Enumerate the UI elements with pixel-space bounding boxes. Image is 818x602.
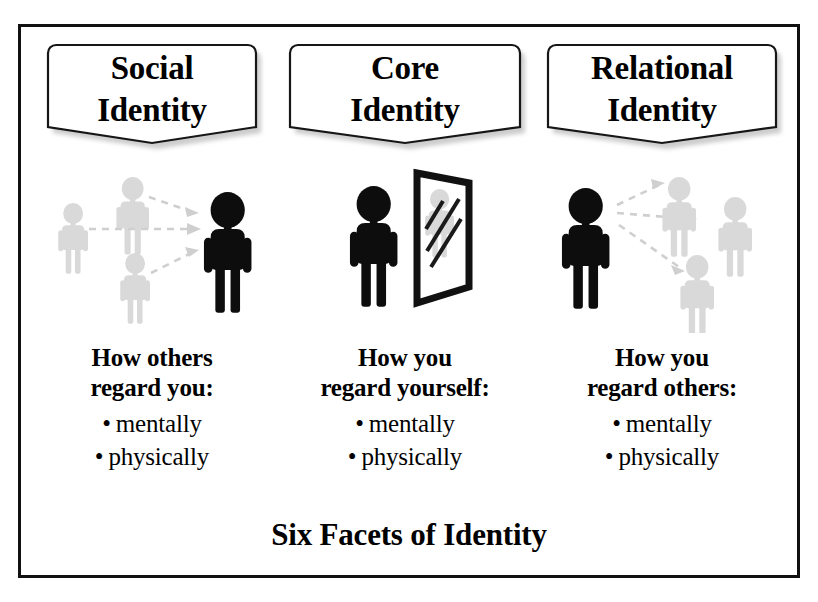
light-figure-left [58, 203, 88, 274]
banner-core: Core Identity [288, 43, 522, 147]
self-mirror-pictogram [277, 155, 533, 333]
caption-relational: How you regard others: •mentally •physic… [533, 343, 791, 473]
dashed-arrow-upper [617, 185, 659, 205]
facet-columns: Social Identity [21, 27, 797, 575]
bullet-icon: • [95, 443, 104, 470]
light-figure-lower [120, 253, 150, 324]
bullet-icon: • [355, 410, 364, 437]
bullet-icon: • [612, 410, 621, 437]
caption-bullet-label: physically [361, 443, 462, 470]
banner-label-social: Social Identity [46, 47, 258, 131]
caption-bullet-label: mentally [116, 410, 202, 437]
caption-bullet-label: physically [618, 443, 719, 470]
bullet-icon: • [102, 410, 111, 437]
facet-column-social: Social Identity [27, 27, 277, 575]
artwork-relational [533, 155, 791, 333]
artwork-core [277, 155, 533, 333]
artwork-social [27, 155, 277, 333]
light-figure-upper [116, 177, 149, 255]
arrowhead-group [185, 207, 201, 257]
caption-bullet-physically: •physically [533, 440, 791, 473]
caption-bullet-mentally: •mentally [277, 407, 533, 440]
caption-list-relational: •mentally •physically [533, 407, 791, 473]
facet-column-core: Core Identity [277, 27, 533, 575]
bullet-icon: • [348, 443, 357, 470]
light-figure-upper [662, 177, 696, 257]
banner-social: Social Identity [46, 43, 258, 147]
dark-figure-core [350, 186, 398, 307]
dark-figure-relational [562, 188, 610, 309]
light-figure-lower [680, 255, 714, 333]
caption-list-social: •mentally •physically [27, 407, 277, 473]
caption-social: How others regard you: •mentally •physic… [27, 343, 277, 473]
dashed-arrow-lower [619, 225, 679, 267]
facet-column-relational: Relational Identity [533, 27, 791, 575]
caption-heading-social: How others regard you: [27, 343, 277, 403]
banner-label-relational: Relational Identity [546, 47, 778, 131]
caption-heading-relational: How you regard others: [533, 343, 791, 403]
light-figure-right [718, 197, 752, 277]
light-figure-group [662, 177, 752, 333]
caption-bullet-label: mentally [626, 410, 712, 437]
caption-list-core: •mentally •physically [277, 407, 533, 473]
you-regarding-others-pictogram [533, 155, 791, 333]
caption-bullet-label: physically [108, 443, 209, 470]
dark-figure-social [204, 192, 252, 313]
light-figure-group [58, 177, 150, 324]
bullet-icon: • [605, 443, 614, 470]
caption-bullet-physically: •physically [27, 440, 277, 473]
caption-heading-core: How you regard yourself: [277, 343, 533, 403]
diagram-frame: Social Identity [18, 24, 800, 578]
banner-label-core: Core Identity [288, 47, 522, 131]
caption-bullet-label: mentally [369, 410, 455, 437]
caption-core: How you regard yourself: •mentally •phys… [277, 343, 533, 473]
caption-bullet-mentally: •mentally [533, 407, 791, 440]
banner-relational: Relational Identity [546, 43, 778, 147]
mirror-icon [417, 173, 469, 303]
caption-bullet-mentally: •mentally [27, 407, 277, 440]
caption-bullet-physically: •physically [277, 440, 533, 473]
others-regarding-you-pictogram [27, 155, 277, 333]
diagram-title: Six Facets of Identity [21, 517, 797, 553]
